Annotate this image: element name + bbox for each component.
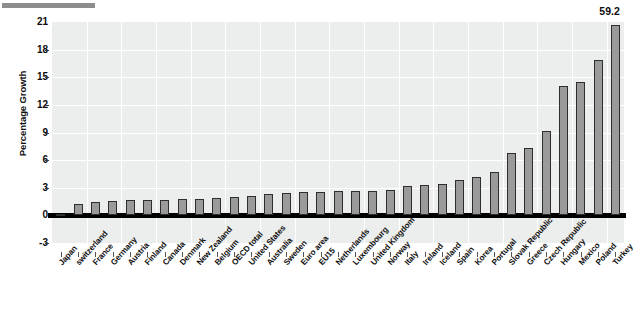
y-axis-tick-label: 15 (8, 71, 48, 82)
bar (299, 192, 308, 215)
bar (178, 199, 187, 216)
bar (230, 197, 239, 215)
bar (74, 204, 83, 215)
gridline-vertical (295, 22, 296, 243)
bar (143, 200, 152, 216)
bar (126, 200, 135, 216)
bar (212, 198, 221, 215)
gridline-vertical (468, 22, 469, 243)
bar (542, 131, 551, 216)
y-axis-tick-mark (45, 243, 49, 244)
gridline-vertical (537, 22, 538, 243)
bar (264, 194, 273, 215)
y-axis-tick-label: 0 (8, 209, 48, 220)
clipped-bar-value-label: 59.2 (599, 5, 619, 17)
bar (247, 196, 256, 215)
y-axis-tick-mark (45, 50, 49, 51)
y-axis-tick-mark (45, 77, 49, 78)
bar (559, 86, 568, 216)
y-axis-tick-label: 6 (8, 154, 48, 165)
bar (455, 180, 464, 215)
bar (490, 172, 499, 215)
y-axis-tick-mark (45, 160, 49, 161)
bar (386, 190, 395, 216)
bar (594, 60, 603, 216)
bar (507, 153, 516, 216)
bar (420, 185, 429, 215)
bar (576, 82, 585, 216)
y-axis-tick-label: 21 (8, 16, 48, 27)
gridline-vertical (260, 22, 261, 243)
bar (195, 199, 204, 216)
gridline-vertical (607, 22, 608, 243)
bar (316, 192, 325, 215)
gridline-vertical (121, 22, 122, 243)
bar (368, 191, 377, 216)
gridline-vertical (572, 22, 573, 243)
bar (91, 202, 100, 216)
y-axis-tick-label: 9 (8, 127, 48, 138)
gridline-vertical (225, 22, 226, 243)
y-axis-tick-label: -3 (8, 237, 48, 248)
gridline-vertical (329, 22, 330, 243)
top-rule-decoration (2, 3, 95, 8)
bar (524, 148, 533, 215)
gridline-vertical (503, 22, 504, 243)
gridline-vertical (191, 22, 192, 243)
gridline-vertical (156, 22, 157, 243)
bar (472, 177, 481, 216)
bar (108, 201, 117, 216)
bar (403, 186, 412, 215)
y-axis-tick-mark (45, 133, 49, 134)
gridline-vertical (399, 22, 400, 243)
bar (282, 193, 291, 215)
gridline-vertical (364, 22, 365, 243)
bar (334, 191, 343, 215)
bar (56, 214, 65, 216)
bar (438, 184, 447, 215)
y-axis-tick-mark (45, 105, 49, 106)
bar (351, 191, 360, 215)
bar (611, 25, 620, 216)
y-axis-tick-label: 18 (8, 44, 48, 55)
y-axis-tick-label: 3 (8, 182, 48, 193)
y-axis-tick-label: 12 (8, 99, 48, 110)
gridline-vertical (433, 22, 434, 243)
gridline-vertical (87, 22, 88, 243)
bar (160, 200, 169, 216)
y-axis-tick-mark (45, 188, 49, 189)
